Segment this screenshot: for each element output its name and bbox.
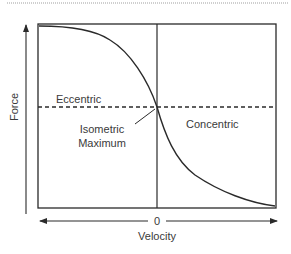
x-origin-label: 0 [154, 215, 160, 227]
eccentric-label: Eccentric [56, 93, 102, 105]
isometric-label-line1: Isometric [80, 123, 125, 135]
isometric-leader-line [135, 109, 155, 124]
y-axis-label: Force [8, 93, 20, 121]
force-velocity-diagram: Force 0 Velocity Eccentric Concentric Is… [0, 0, 291, 254]
x-axis-label: Velocity [138, 230, 176, 242]
isometric-label-line2: Maximum [78, 137, 126, 149]
concentric-label: Concentric [186, 118, 239, 130]
